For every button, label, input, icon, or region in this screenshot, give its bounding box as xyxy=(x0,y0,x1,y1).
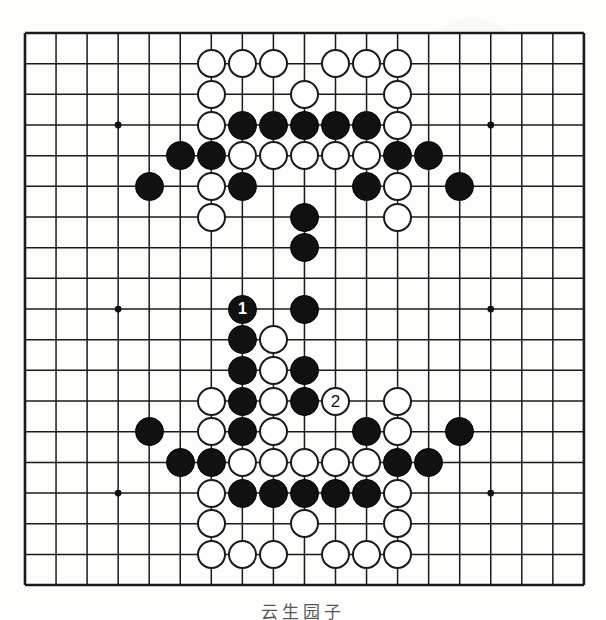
stone-black[interactable] xyxy=(414,141,443,170)
stone-white[interactable] xyxy=(197,479,226,508)
stone-white[interactable] xyxy=(197,111,226,140)
stone-white[interactable] xyxy=(352,540,381,569)
stone-black[interactable] xyxy=(321,111,350,140)
stone-white[interactable] xyxy=(197,417,226,446)
stone-black[interactable] xyxy=(259,479,288,508)
stone-white[interactable] xyxy=(321,49,350,78)
stone-white[interactable] xyxy=(352,448,381,477)
stone-black[interactable] xyxy=(197,141,226,170)
stone-white[interactable] xyxy=(383,479,412,508)
stone-white[interactable] xyxy=(290,80,319,109)
stone-black[interactable] xyxy=(259,111,288,140)
stone-white[interactable] xyxy=(259,356,288,385)
stone-white[interactable] xyxy=(321,448,350,477)
stone-white[interactable] xyxy=(197,172,226,201)
stone-black[interactable] xyxy=(290,111,319,140)
stone-white[interactable] xyxy=(321,540,350,569)
stone-black[interactable] xyxy=(166,141,195,170)
stone-black[interactable] xyxy=(383,141,412,170)
stone-white[interactable] xyxy=(383,172,412,201)
stone-white[interactable] xyxy=(197,203,226,232)
stone-black[interactable] xyxy=(414,448,443,477)
stone-white[interactable] xyxy=(321,141,350,170)
stone-white[interactable] xyxy=(259,387,288,416)
stone-black[interactable] xyxy=(445,417,474,446)
stone-black[interactable] xyxy=(228,172,257,201)
stone-black[interactable] xyxy=(352,417,381,446)
move-marker-stone-1[interactable]: 1 xyxy=(228,295,257,324)
stone-black[interactable] xyxy=(352,479,381,508)
stone-black[interactable] xyxy=(135,172,164,201)
stone-white[interactable] xyxy=(259,49,288,78)
stone-black[interactable] xyxy=(228,387,257,416)
stone-white[interactable] xyxy=(383,540,412,569)
stone-black[interactable] xyxy=(228,479,257,508)
stone-black[interactable] xyxy=(228,325,257,354)
move-number-label: 1 xyxy=(238,301,247,317)
stone-black[interactable] xyxy=(290,203,319,232)
stone-black[interactable] xyxy=(290,295,319,324)
stone-white[interactable] xyxy=(197,387,226,416)
stone-white[interactable] xyxy=(383,417,412,446)
move-marker-stone-2[interactable]: 2 xyxy=(321,387,350,416)
stone-black[interactable] xyxy=(321,479,350,508)
stone-white[interactable] xyxy=(197,80,226,109)
stone-white[interactable] xyxy=(259,141,288,170)
stone-black[interactable] xyxy=(197,448,226,477)
stone-white[interactable] xyxy=(228,448,257,477)
stone-white[interactable] xyxy=(197,49,226,78)
stone-white[interactable] xyxy=(290,448,319,477)
stone-white[interactable] xyxy=(290,509,319,538)
stone-black[interactable] xyxy=(290,356,319,385)
stone-black[interactable] xyxy=(290,387,319,416)
stone-black[interactable] xyxy=(352,172,381,201)
stone-black[interactable] xyxy=(166,448,195,477)
stone-white[interactable] xyxy=(197,540,226,569)
stone-white[interactable] xyxy=(228,540,257,569)
stone-white[interactable] xyxy=(259,540,288,569)
stone-white[interactable] xyxy=(259,325,288,354)
stone-white[interactable] xyxy=(259,417,288,446)
stone-white[interactable] xyxy=(228,49,257,78)
stone-black[interactable] xyxy=(445,172,474,201)
stone-black[interactable] xyxy=(352,111,381,140)
stone-white[interactable] xyxy=(228,141,257,170)
stone-white[interactable] xyxy=(383,111,412,140)
stone-black[interactable] xyxy=(383,448,412,477)
stone-white[interactable] xyxy=(383,509,412,538)
stone-white[interactable] xyxy=(383,80,412,109)
stone-black[interactable] xyxy=(228,111,257,140)
stone-white[interactable] xyxy=(197,509,226,538)
stone-black[interactable] xyxy=(228,417,257,446)
stone-white[interactable] xyxy=(383,49,412,78)
stone-black[interactable] xyxy=(228,356,257,385)
diagram-caption: 云生园子 xyxy=(0,598,606,620)
stone-white[interactable] xyxy=(352,141,381,170)
stone-black[interactable] xyxy=(290,479,319,508)
stone-white[interactable] xyxy=(383,203,412,232)
stone-black[interactable] xyxy=(135,417,164,446)
stone-black[interactable] xyxy=(290,233,319,262)
stone-white[interactable] xyxy=(259,448,288,477)
stone-white[interactable] xyxy=(290,141,319,170)
stone-white[interactable] xyxy=(352,49,381,78)
move-number-label: 2 xyxy=(331,393,340,410)
stone-white[interactable] xyxy=(383,387,412,416)
